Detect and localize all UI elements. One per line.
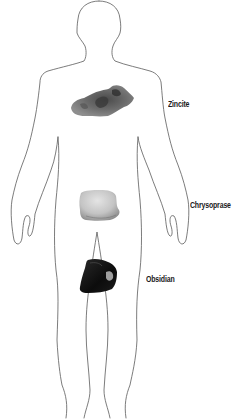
chrysoprase-stone [79, 190, 119, 221]
outline-left-inner [55, 137, 67, 418]
obsidian-label: Obsidian [146, 274, 175, 284]
zincite-stone [71, 85, 134, 116]
obsidian-stone [80, 259, 117, 293]
chrysoprase-label: Chrysoprase [190, 200, 231, 210]
body-outline [0, 0, 235, 420]
zincite-label: Zincite [168, 99, 189, 109]
outline-right-inner [125, 137, 141, 418]
